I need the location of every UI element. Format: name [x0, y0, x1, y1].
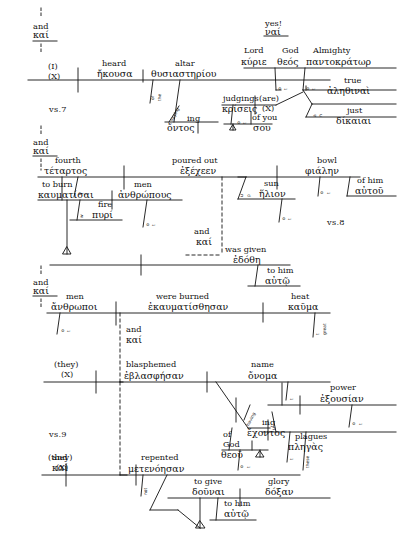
v9-verb3-english: repented — [141, 453, 179, 461]
v9-plagues-greek: πληγὰς — [288, 442, 323, 451]
v9-name-greek: ὄνομα — [248, 371, 277, 380]
v7-object-greek: θυσιαστηρίου — [151, 69, 216, 78]
connector-bottom-greek: καί — [33, 286, 49, 295]
v9-having-greek: ἔχοντος — [247, 428, 285, 437]
v9-mod-the-name: t — [290, 398, 295, 400]
v9-subject-greek: ἄνθρωποι — [51, 302, 97, 311]
v9-mod-of-men: o — [61, 329, 66, 332]
connector-top-greek: καί — [33, 30, 49, 39]
v8-mod-the-sun: t — [288, 218, 293, 220]
v8-wasgiven-greek: ἐδόθη — [233, 255, 261, 264]
v9-subject2-placeholder: (X) — [61, 370, 73, 378]
v9-glory-greek: δόξαν — [265, 487, 293, 496]
v9-name-english: name — [251, 360, 274, 368]
v9-plagues-english: plagues — [295, 432, 327, 440]
v7-god-english: God — [282, 46, 299, 54]
v8-tohim-english: to him — [267, 266, 293, 274]
v8-and-greek: καί — [196, 237, 212, 246]
v8-ofhim-english: of him — [357, 176, 383, 184]
v8-mod-with-fire: w — [80, 214, 85, 218]
v9-verb2-greek: ἐβλασφήσαν — [124, 371, 184, 380]
v7-subject-english: (I) — [48, 62, 58, 70]
v9-heat-english: heat — [291, 292, 309, 300]
v9-ofgod-god: God — [223, 440, 240, 448]
v9-mod-these-plagues: these — [306, 456, 311, 468]
v9-tohim-english: to him — [224, 499, 250, 507]
v7-mod-ofyou-a: o — [237, 121, 242, 124]
v8-sun-english: sun — [264, 179, 279, 187]
v9-power-english: power — [330, 383, 356, 391]
v7-mod-and-just2: n — [319, 114, 324, 117]
v8-verb-greek: ἐξέχεεν — [180, 166, 216, 175]
v9-subject3-placeholder: (X) — [56, 463, 68, 471]
v8-mod-of-fourth: o — [78, 192, 83, 195]
v7-are-english: (are) — [259, 94, 279, 102]
v9-togive-english: to give — [194, 477, 222, 485]
v9-heat-greek: καῦμα — [288, 302, 318, 311]
v9-mod-the-men: t — [67, 330, 72, 332]
v9-and1-english: and — [126, 325, 141, 333]
v9-mod-upon-plagues: u — [272, 427, 277, 430]
v7-true-greek: ἀληθιναὶ — [327, 86, 370, 95]
v7-almighty-greek: παντοκράτωρ — [306, 57, 371, 66]
v9-mod-of-god: o — [240, 465, 245, 468]
v7-just-english: just — [347, 106, 362, 114]
v7-participle-greek: ὄντος — [167, 123, 194, 132]
v9-mod-great-heat: great — [323, 323, 328, 335]
v7-participle-english-tail: ing — [187, 114, 200, 122]
v7-god-greek: θεός — [277, 57, 298, 66]
v9-glory-english: glory — [268, 477, 289, 485]
v7-lord-greek: κύριε — [241, 57, 267, 66]
v9-marker: vs.9 — [49, 430, 67, 438]
v7-mod-the-almighty: t — [312, 88, 317, 90]
v7-mod-the: the — [158, 94, 163, 101]
v8-toburn-english: to burn — [42, 180, 73, 188]
v8-mod-upon-sun: u — [240, 194, 245, 197]
v8-mod-the-men: t — [152, 224, 157, 226]
v9-mod-the-heat: t — [316, 333, 321, 335]
v8-and-english: and — [194, 227, 209, 235]
v8-object-greek: φιάλην — [305, 166, 339, 175]
v7-ofyou-english: of you — [252, 113, 277, 121]
v9-togive-greek: δοῦναι — [192, 487, 225, 496]
v9-tohim-greek: αὐτῷ — [224, 509, 249, 518]
v8-mod-the-bowl: t — [327, 192, 332, 194]
v9-having-tail: ing — [262, 418, 275, 426]
v9-verb-english: were burned — [156, 292, 209, 300]
v9-ofgod-greek: θεοῦ — [221, 450, 243, 459]
v8-mod-upon-sun2: p — [247, 194, 252, 197]
v9-subject3-english: (they) — [48, 453, 72, 461]
v9-subject2-english: (they) — [54, 360, 78, 368]
v9-mod-over-the: o — [352, 422, 357, 425]
v8-sun-greek: ἥλιον — [259, 189, 286, 198]
v9-verb2-english: blasphemed — [126, 360, 176, 368]
v8-mod-of-sun: o — [282, 217, 287, 220]
v9-power-greek: ἐξουσίαν — [320, 394, 364, 403]
v9-ofgod-of: of — [223, 430, 231, 438]
v7-true-english: true — [344, 76, 361, 84]
v7-verb-english: heard — [102, 59, 126, 67]
v7-almighty-english: Almighty — [313, 46, 350, 54]
v9-mod-the-plagues: t — [290, 458, 295, 460]
v8-fire-english: fire — [98, 200, 112, 208]
v7-verb-greek: ἤκουσα — [97, 69, 133, 78]
v9-mod-the-god: t — [247, 466, 252, 468]
v8-ofhim-greek: αὐτοῦ — [355, 186, 384, 195]
v7-mod-of-god: o — [278, 87, 283, 90]
v9-verb3-greek: μετενόησαν — [128, 464, 184, 473]
v7-mod-of: of — [151, 96, 156, 100]
v8-object-english: bowl — [317, 156, 337, 164]
v7-judgings-english: judgings — [223, 94, 259, 102]
v8-mod-of-bowl: o — [320, 191, 325, 194]
v9-subject-english: men — [66, 292, 84, 300]
diagram-sheet: and καί (I) (X) vs.7 heard ἤκουσα altar … — [0, 0, 401, 543]
v8-fire-greek: πυρί — [92, 210, 113, 219]
v8-wasgiven-english: was given — [225, 245, 266, 253]
v7-lord-english: Lord — [244, 46, 264, 54]
v9-mod-over-the2: t — [359, 423, 364, 425]
v7-subject-placeholder: (X) — [48, 72, 60, 80]
v7-exclaim-greek: ναί — [265, 27, 281, 36]
v7-mod-the-god: t — [284, 88, 289, 90]
v7-mod-of-almighty: o — [306, 87, 311, 90]
v7-ofyou-greek: σου — [253, 123, 271, 132]
